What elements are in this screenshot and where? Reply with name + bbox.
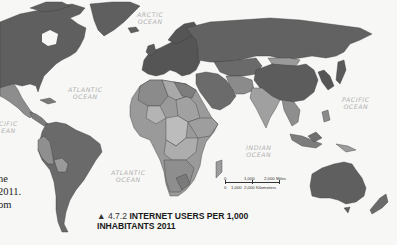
- region-australia: [310, 162, 366, 204]
- region-north-america: [0, 4, 86, 92]
- region-new-zealand: [370, 194, 388, 214]
- caption-title-line2: INHABITANTS 2011: [97, 221, 248, 231]
- caption-title-line1: INTERNET USERS PER 1,000: [129, 211, 248, 221]
- scale-tick: [279, 180, 280, 184]
- body-text-fragment: ne: [0, 172, 8, 185]
- scale-km-0: 0: [224, 185, 226, 190]
- atlantic-ocean-south-label: ATLANTIC OCEAN: [111, 169, 146, 183]
- scale-miles-1000: 1,000: [244, 176, 255, 181]
- world-map: [0, 0, 397, 245]
- figure-number: ▲ 4.7.2: [97, 211, 127, 221]
- map-caption: ▲ 4.7.2 INTERNET USERS PER 1,000 INHABIT…: [97, 211, 248, 231]
- scale-tick: [225, 180, 226, 184]
- scale-miles-2000: 2,000 Miles: [264, 176, 286, 181]
- atlantic-ocean-north-label: ATLANTIC OCEAN: [68, 86, 103, 100]
- body-text-fragment: om: [0, 198, 11, 211]
- arctic-ocean-label: ARCTIC OCEAN: [137, 11, 163, 25]
- body-text-fragment: 2011.: [0, 185, 21, 198]
- region-south-america: [38, 122, 102, 232]
- scale-bar: 0 1,000 2,000 Miles 0 1,000 2,000 Kilome…: [224, 176, 304, 198]
- scale-km-2000: 2,000 Kilometers: [244, 185, 276, 190]
- indian-ocean-label: INDIAN OCEAN: [246, 144, 272, 158]
- scale-km-1000: 1,000: [231, 185, 242, 190]
- region-mexico: [0, 84, 34, 118]
- pacific-ocean-east-label: PACIFIC OCEAN: [342, 96, 370, 110]
- region-russia: [186, 18, 372, 62]
- caption-line-1: ▲ 4.7.2 INTERNET USERS PER 1,000: [97, 211, 248, 221]
- scale-tick: [252, 180, 253, 184]
- pacific-ocean-west-label: CIFIC EAN: [0, 120, 18, 134]
